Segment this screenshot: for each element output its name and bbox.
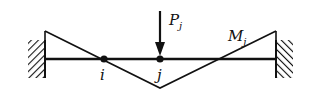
load-arrow: [155, 11, 165, 56]
load-arrow-head: [155, 42, 165, 56]
node-i: [100, 55, 107, 62]
right-fixed-support: [276, 40, 293, 78]
right-support-hatch: [277, 40, 293, 78]
beam-diagram: i j Pj Mj: [0, 0, 321, 111]
node-j: [156, 55, 163, 62]
left-fixed-support: [28, 40, 45, 78]
left-support-hatch: [28, 40, 44, 78]
label-moment: Mj: [227, 27, 246, 47]
label-node-i: i: [100, 66, 105, 84]
label-load: Pj: [168, 11, 182, 31]
label-node-j: j: [154, 66, 162, 84]
label-moment-main: M: [227, 27, 244, 45]
